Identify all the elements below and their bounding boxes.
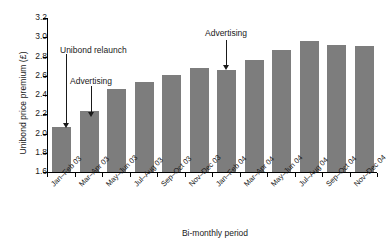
- x-axis-tick: [267, 173, 268, 177]
- annotation-arrow-head: [88, 112, 94, 117]
- bar[interactable]: [272, 50, 291, 172]
- x-axis-title-text: Bi-monthly period: [182, 228, 248, 238]
- x-axis-tick: [130, 173, 131, 177]
- annotation-arrow-line: [91, 86, 92, 112]
- x-axis-tick: [102, 173, 103, 177]
- bar[interactable]: [190, 68, 209, 172]
- x-axis-tick: [212, 173, 213, 177]
- bar-chart: Unibond price premium (£) 3.23.02.82.62.…: [0, 0, 390, 248]
- bar[interactable]: [300, 41, 319, 172]
- x-axis-tick: [185, 173, 186, 177]
- x-axis-tick: [322, 173, 323, 177]
- plot-area: [47, 18, 377, 172]
- annotation-label: Advertising: [70, 76, 112, 86]
- x-axis-tick: [47, 173, 48, 177]
- annotation-arrow-head: [223, 65, 229, 70]
- annotation-arrow-head: [63, 123, 69, 128]
- bar[interactable]: [245, 60, 264, 172]
- annotation-label: Advertising: [205, 28, 247, 38]
- bar[interactable]: [355, 46, 374, 172]
- x-axis-tick: [350, 173, 351, 177]
- bar[interactable]: [162, 75, 181, 172]
- x-axis-tick: [377, 173, 378, 177]
- x-axis-tick: [295, 173, 296, 177]
- annotation-label: Unibond relaunch: [60, 45, 127, 55]
- x-axis-tick: [157, 173, 158, 177]
- annotation-arrow-line: [226, 40, 227, 65]
- annotation-arrow-line: [66, 54, 67, 123]
- x-axis-tick: [75, 173, 76, 177]
- x-axis-tick: [240, 173, 241, 177]
- x-axis-title: Bi-monthly period: [0, 228, 390, 238]
- bar[interactable]: [327, 45, 346, 172]
